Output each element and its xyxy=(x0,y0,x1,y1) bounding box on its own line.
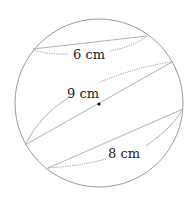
sphere-diagram: 6 cm 9 cm 8 cm xyxy=(0,0,195,210)
bottom-section-label: 8 cm xyxy=(108,146,140,161)
bottom-section-arc-right xyxy=(146,109,183,146)
middle-section-arc-high xyxy=(100,62,172,82)
bottom-section-arc-left xyxy=(48,159,106,168)
top-section-arc-left xyxy=(33,49,68,54)
top-section-label: 6 cm xyxy=(73,47,105,62)
sphere-center-dot xyxy=(97,102,100,105)
middle-section-arc-low xyxy=(25,98,68,145)
middle-section-label: 9 cm xyxy=(67,86,99,101)
